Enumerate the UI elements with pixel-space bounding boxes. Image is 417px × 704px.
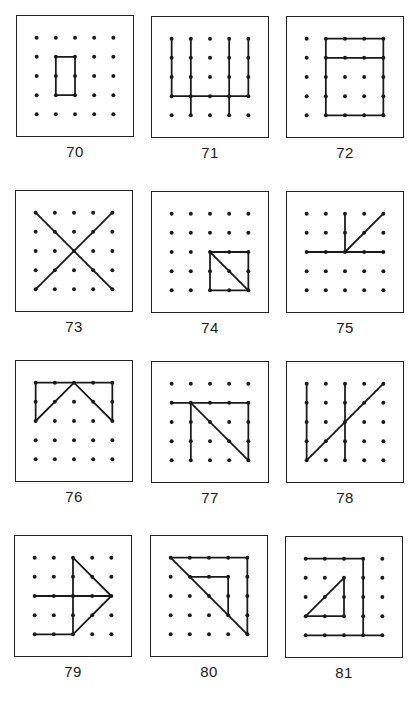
peg-dot-icon [71,613,75,617]
peg-dot-icon [35,74,39,78]
peg-dot-icon [170,250,174,254]
peg-dot-icon [92,112,96,116]
peg-dot-icon [170,75,174,79]
peg-dot-icon [54,55,58,59]
figure-number: 78 [286,489,404,506]
peg-dot-icon [324,56,328,60]
peg-dot-icon [207,594,211,598]
peg-dot-icon [53,287,57,291]
peg-dot-icon [323,595,327,599]
peg-dot-icon [343,75,347,79]
peg-dot-icon [343,250,347,254]
peg-dot-icon [381,439,385,443]
peg-dot-icon [71,575,75,579]
peg-dot-icon [34,287,38,291]
peg-dot-icon [110,211,114,215]
peg-dot-icon [305,56,309,60]
peg-dot-icon [110,268,114,272]
figure-72: 72 [286,16,406,161]
peg-dot-icon [53,419,57,423]
peg-dot-icon [323,633,327,637]
figure-number: 76 [15,488,133,505]
peg-dot-icon [246,56,250,60]
peg-dot-icon [227,382,231,386]
peg-dot-icon [170,458,174,462]
peg-dot-icon [92,93,96,97]
peg-dot-icon [92,55,96,59]
peg-dot-icon [305,288,309,292]
peg-dot-icon [208,113,212,117]
peg-dot-icon [189,288,193,292]
peg-grid [16,361,132,481]
peg-dot-icon [189,269,193,273]
peg-dot-icon [189,37,193,41]
figure-73: 73 [15,190,135,335]
peg-dot-icon [91,400,95,404]
peg-dot-icon [305,37,309,41]
peg-grid [151,536,267,656]
peg-dot-icon [324,420,328,424]
peg-dot-icon [246,231,250,235]
peg-dot-icon [110,230,114,234]
peg-dot-icon [35,93,39,97]
peg-dot-icon [170,401,174,405]
peg-dot-icon [342,576,346,580]
peg-dot-icon [170,382,174,386]
peg-dot-icon [227,458,231,462]
peg-dot-icon [227,288,231,292]
peg-dot-icon [381,250,385,254]
peg-dot-icon [227,37,231,41]
peg-dot-icon [226,594,230,598]
peg-dot-icon [34,211,38,215]
peg-dot-icon [189,56,193,60]
peg-dot-icon [343,56,347,60]
peg-dot-icon [361,557,365,561]
peg-dot-icon [52,613,56,617]
peg-dot-icon [34,381,38,385]
peg-dot-icon [324,75,328,79]
peg-dot-icon [111,112,115,116]
peg-dot-icon [91,249,95,253]
figure-74: 74 [151,191,271,336]
peg-dot-icon [33,613,37,617]
peg-dot-icon [33,594,37,598]
peg-dot-icon [92,74,96,78]
peg-dot-icon [54,74,58,78]
peg-dot-icon [110,381,114,385]
peg-dot-icon [362,113,366,117]
peg-dot-icon [109,613,113,617]
peg-dot-icon [324,231,328,235]
peg-dot-icon [33,632,37,636]
peg-dot-icon [362,382,366,386]
peg-dot-icon [189,94,193,98]
peg-dot-icon [381,113,385,117]
peg-dot-icon [381,212,385,216]
peg-grid [286,537,402,657]
peg-dot-icon [189,250,193,254]
figure-70: 70 [16,15,136,160]
peg-dot-icon [381,288,385,292]
peg-dot-icon [53,230,57,234]
peg-dot-icon [72,457,76,461]
peg-dot-icon [227,439,231,443]
peg-dot-icon [245,575,249,579]
peg-dot-icon [109,556,113,560]
peg-dot-icon [91,211,95,215]
peg-dot-icon [362,231,366,235]
peg-dot-icon [189,401,193,405]
figure-number: 70 [16,143,134,160]
peg-dot-icon [305,382,309,386]
peg-grid [152,362,268,482]
peg-dot-icon [362,75,366,79]
peg-dot-icon [227,113,231,117]
peg-dot-icon [109,575,113,579]
peg-dot-icon [71,632,75,636]
peg-dot-icon [305,250,309,254]
peg-dot-icon [54,112,58,116]
peg-dot-icon [208,439,212,443]
peg-dot-icon [342,614,346,618]
peg-dot-icon [246,269,250,273]
peg-dot-icon [34,457,38,461]
peg-grid [287,362,403,482]
peg-dot-icon [362,56,366,60]
